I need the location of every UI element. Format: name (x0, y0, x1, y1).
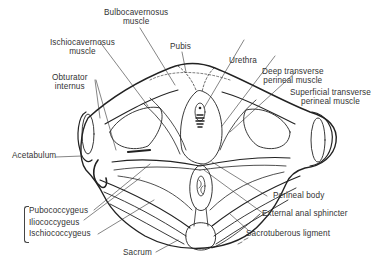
label-perineal-body: Perineal body (273, 191, 324, 200)
label-obturator-internus: Obturator internus (52, 73, 88, 91)
label-acetabulum: Acetabulum (12, 151, 56, 160)
label-urethra: Urethra (229, 56, 257, 65)
label-pubococcygeus: Pubococcygeus (29, 205, 91, 217)
label-levator-ani-group: Pubococcygeus Iliococcygeus Ischiococcyg… (29, 205, 91, 240)
label-line: internus (52, 82, 88, 91)
label-external-anal-sphincter: External anal sphincter (262, 209, 348, 218)
label-iliococcygeus: Iliococcygeus (29, 217, 91, 229)
label-sacrum: Sacrum (123, 248, 152, 257)
label-line: muscle (104, 17, 168, 26)
label-line: muscle (50, 47, 115, 56)
label-line: Obturator (52, 73, 88, 82)
label-pubis: Pubis (170, 42, 191, 51)
label-ischiococcygeus: Ischiococcygeus (29, 228, 91, 240)
label-deep-transverse-perineal: Deep transverse perineal muscle (262, 67, 324, 85)
label-bulbocavernosus: Bulbocavernosus muscle (104, 8, 168, 26)
label-line: perineal muscle (290, 97, 371, 106)
label-line: Ischiocavernosus (50, 38, 115, 47)
label-sacrotuberous-ligament: Sacrotuberous ligment (246, 229, 330, 238)
label-line: perineal muscle (262, 76, 324, 85)
label-line: Bulbocavernosus (104, 8, 168, 17)
label-line: Deep transverse (262, 67, 324, 76)
pelvic-floor-diagram: Bulbocavernosus muscle Ischiocavernosus … (0, 0, 389, 266)
label-superficial-transverse-perineal: Superficial transverse perineal muscle (290, 88, 371, 106)
label-line: Superficial transverse (290, 88, 371, 97)
label-ischiocavernosus: Ischiocavernosus muscle (50, 38, 115, 56)
